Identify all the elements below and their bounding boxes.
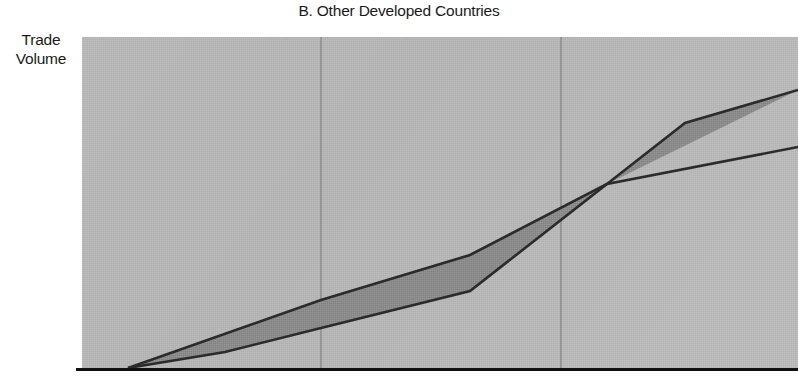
plot-background-group [82, 37, 798, 369]
plot-background-texture [82, 37, 798, 369]
chart-figure: B. Other Developed Countries Trade Volum… [0, 0, 798, 377]
plot-area [0, 0, 798, 377]
